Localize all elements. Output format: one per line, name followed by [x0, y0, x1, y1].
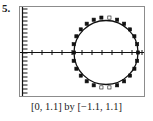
- x-axis: [20, 50, 144, 55]
- figure-container: 5.: [0, 0, 153, 121]
- y-axis-ticks: [23, 9, 28, 93]
- problem-number-label: 5.: [2, 2, 10, 14]
- plot-area: [20, 7, 144, 96]
- calculator-screen: [19, 6, 145, 97]
- plot-svg: [20, 7, 144, 96]
- viewing-window-caption: [0, 1.1] by [−1.1, 1.1]: [0, 100, 153, 113]
- y-axis: [23, 7, 28, 96]
